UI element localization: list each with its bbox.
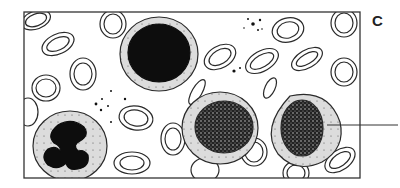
lymphocyte <box>120 17 198 91</box>
mononuclear-cell-1 <box>182 92 258 164</box>
blood-smear-diagram <box>0 0 400 188</box>
mononuclear-cell-2 <box>271 94 341 166</box>
neutrophil <box>33 111 107 181</box>
panel-label: C <box>372 12 383 29</box>
